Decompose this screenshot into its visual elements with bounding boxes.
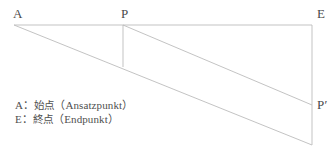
legend-symbol-a: A xyxy=(15,99,23,111)
vertex-label-p: P xyxy=(121,7,128,20)
vertex-label-e: E xyxy=(317,7,325,20)
diagram-canvas: A P E P′ A：始点（Ansatzpunkt） E：終点（Endpunkt… xyxy=(0,0,336,153)
legend-item-a: A：始点（Ansatzpunkt） xyxy=(15,98,133,112)
diagonal-P-to-P-prime xyxy=(123,25,312,105)
legend-item-e: E：終点（Endpunkt） xyxy=(15,112,133,126)
legend-separator-a: ： xyxy=(23,99,34,111)
legend: A：始点（Ansatzpunkt） E：終点（Endpunkt） xyxy=(15,98,133,126)
long-diagonal-A-to-bottom-right xyxy=(14,25,312,145)
legend-japanese-a: 始点 xyxy=(34,99,54,111)
legend-symbol-e: E xyxy=(15,113,22,125)
legend-separator-e: ： xyxy=(22,113,33,125)
legend-japanese-e: 終点 xyxy=(33,113,53,125)
legend-german-e: （Endpunkt） xyxy=(53,113,119,125)
geometry-drawing xyxy=(0,0,336,153)
legend-german-a: （Ansatzpunkt） xyxy=(54,99,133,111)
vertex-label-p-prime: P′ xyxy=(317,98,327,111)
vertex-label-a: A xyxy=(13,7,23,20)
